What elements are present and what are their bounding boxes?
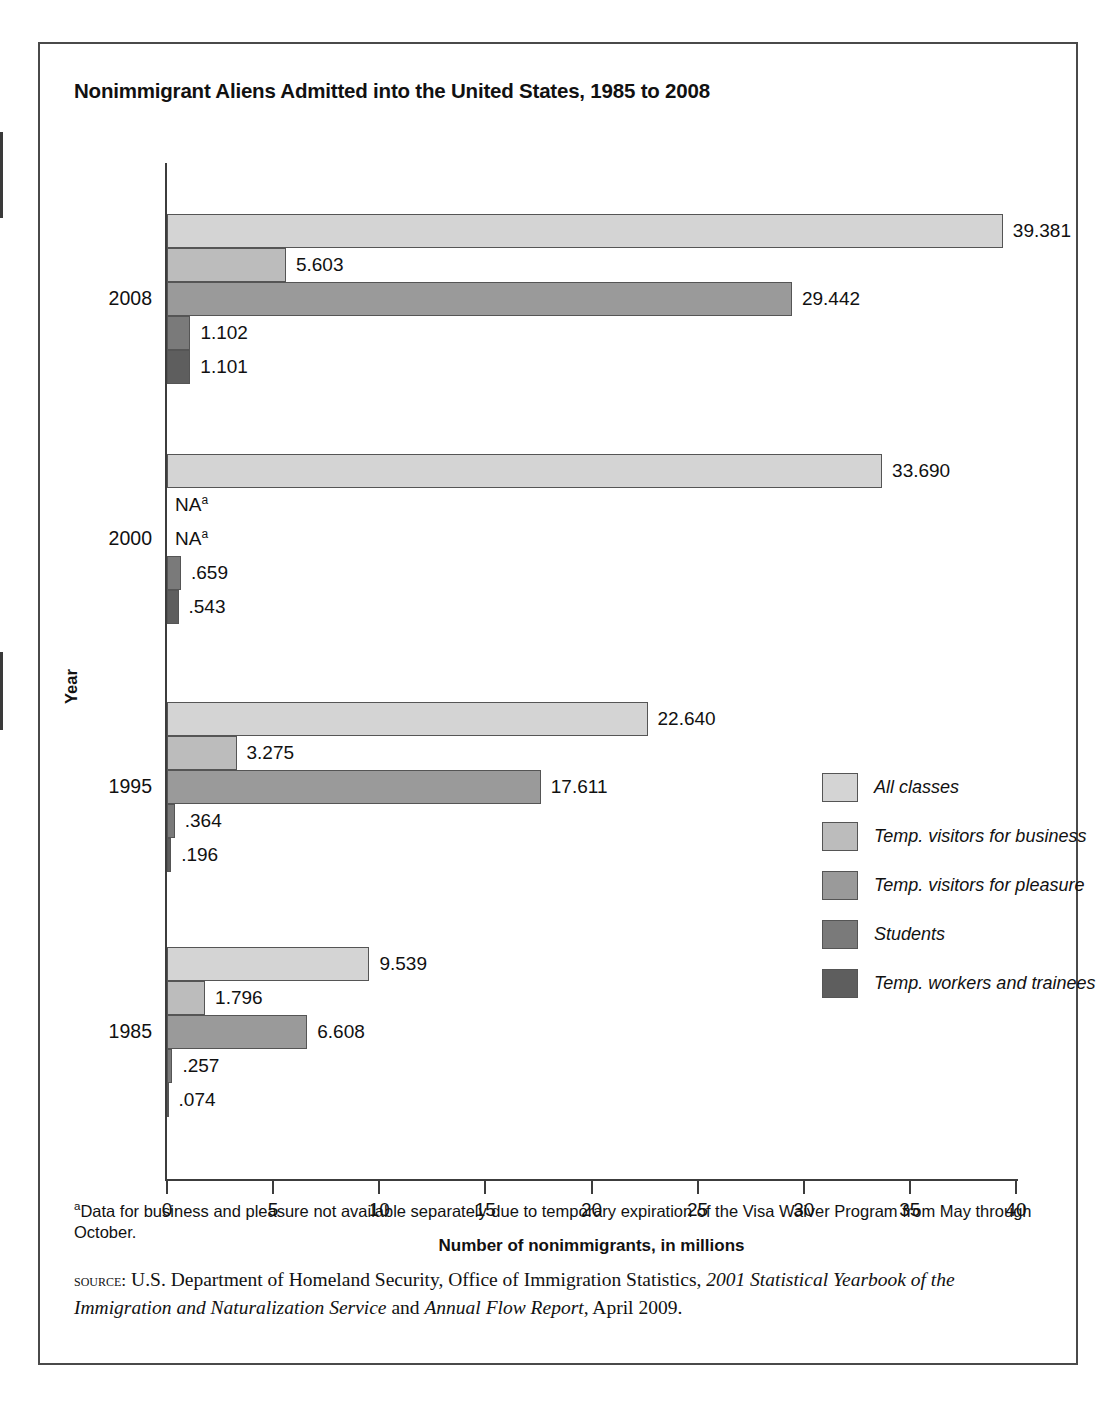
x-axis-tick [697, 1181, 699, 1194]
source-prefix: source: [74, 1270, 126, 1290]
bar [167, 590, 179, 624]
legend-swatch [822, 773, 858, 802]
legend-label: Temp. visitors for pleasure [874, 871, 1084, 900]
bar-value-label: 17.611 [551, 770, 608, 804]
page-title: Nonimmigrant Aliens Admitted into the Un… [74, 79, 710, 103]
bar-value-label: .543 [189, 590, 226, 624]
bar-value-label: 9.539 [379, 947, 427, 981]
legend-label: Temp. visitors for business [874, 822, 1086, 851]
y-axis-category-label: 2008 [62, 287, 152, 310]
footnote-reference: a [201, 527, 208, 541]
x-axis-tick [378, 1181, 380, 1194]
bar-value-label: 6.608 [317, 1015, 365, 1049]
footnote: aData for business and pleasure not avai… [74, 1199, 1049, 1244]
figure-border: Nonimmigrant Aliens Admitted into the Un… [38, 42, 1078, 1365]
legend-label: Students [874, 920, 945, 949]
bar-value-label: 1.101 [200, 350, 248, 384]
bar [167, 454, 882, 488]
bar-value-label: .257 [182, 1049, 219, 1083]
footnote-reference: a [201, 493, 208, 507]
bar-value-label: NAa [175, 522, 208, 556]
bar-value-label: .196 [181, 838, 218, 872]
x-axis-tick [272, 1181, 274, 1194]
source-note: source: U.S. Department of Homeland Secu… [74, 1266, 1049, 1321]
bar [167, 282, 792, 316]
bar [167, 556, 181, 590]
bar-value-label: .074 [179, 1083, 216, 1117]
bar [167, 804, 175, 838]
y-axis-category-label: 2000 [62, 527, 152, 550]
page-trim-mark [0, 132, 3, 218]
y-axis-category-label: 1985 [62, 1020, 152, 1043]
x-axis-tick [591, 1181, 593, 1194]
bar [167, 736, 237, 770]
legend-label: Temp. workers and trainees [874, 969, 1095, 998]
bar-value-label: NAa [175, 488, 208, 522]
source-title-2: Annual Flow Report [424, 1297, 583, 1318]
bar [167, 1015, 307, 1049]
legend-swatch [822, 920, 858, 949]
page-trim-mark [0, 652, 3, 730]
bar [167, 350, 190, 384]
plot-area: 0510152025303540 39.3815.60329.4421.1021… [167, 163, 1016, 1179]
bar [167, 214, 1003, 248]
legend-swatch [822, 822, 858, 851]
bar [167, 248, 286, 282]
bar [167, 981, 205, 1015]
bar-value-label: 5.603 [296, 248, 344, 282]
legend-swatch [822, 969, 858, 998]
footnote-text: Data for business and pleasure not avail… [74, 1202, 1032, 1242]
y-axis-category-label: 1995 [62, 775, 152, 798]
bar [167, 1049, 172, 1083]
bar-value-label: 3.275 [247, 736, 295, 770]
x-axis-tick [1015, 1181, 1017, 1194]
x-axis-tick [484, 1181, 486, 1194]
bar-value-text: NA [175, 494, 201, 515]
bar [167, 838, 171, 872]
x-axis-tick [803, 1181, 805, 1194]
bar-value-label: 33.690 [892, 454, 950, 488]
bar-value-text: NA [175, 528, 201, 549]
y-axis-title: Year [62, 669, 81, 704]
legend-label: All classes [874, 773, 959, 802]
bar-value-label: 1.796 [215, 981, 263, 1015]
figure-page: Nonimmigrant Aliens Admitted into the Un… [0, 0, 1116, 1406]
bar [167, 947, 369, 981]
x-axis-tick [909, 1181, 911, 1194]
bar [167, 1083, 169, 1117]
bar-value-label: 29.442 [802, 282, 860, 316]
legend-swatch [822, 871, 858, 900]
x-axis-tick [166, 1181, 168, 1194]
bar [167, 316, 190, 350]
bar-value-label: 1.102 [200, 316, 248, 350]
bar [167, 702, 648, 736]
bar-value-label: .659 [191, 556, 228, 590]
source-text-2: , April 2009. [584, 1297, 683, 1318]
bar-value-label: 22.640 [658, 702, 716, 736]
source-conjunction: and [387, 1297, 425, 1318]
bar [167, 770, 541, 804]
bar-value-label: 39.381 [1013, 214, 1071, 248]
source-text-1: U.S. Department of Homeland Security, Of… [126, 1269, 706, 1290]
bar-value-label: .364 [185, 804, 222, 838]
